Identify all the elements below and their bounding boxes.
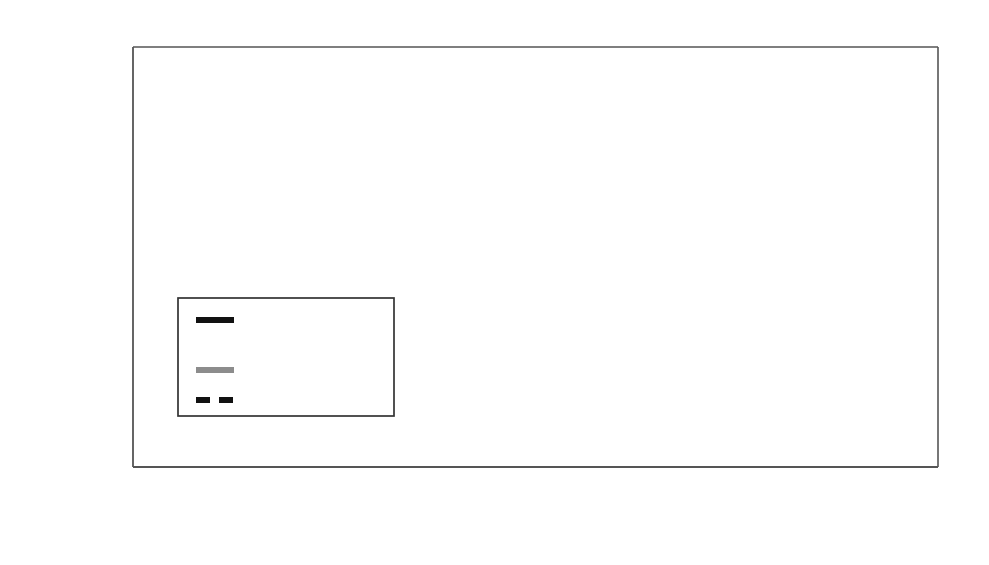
legend-box bbox=[178, 298, 394, 416]
chart-background bbox=[0, 0, 989, 565]
chart-figure bbox=[0, 0, 989, 565]
chart-svg bbox=[0, 0, 989, 565]
chart-legend bbox=[178, 298, 394, 416]
